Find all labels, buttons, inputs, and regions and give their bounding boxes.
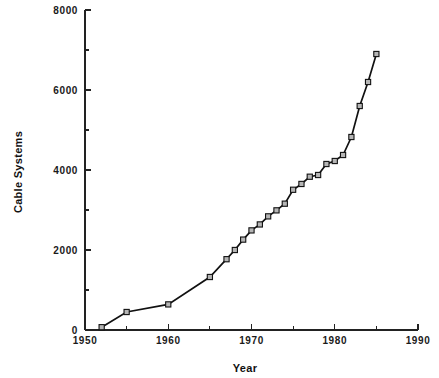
x-tick-label: 1990 bbox=[406, 335, 431, 346]
y-axis-group: 02000400060008000 bbox=[53, 5, 91, 336]
x-tick-label: 1980 bbox=[322, 335, 347, 346]
data-point-marker bbox=[316, 172, 321, 177]
series-line-cable-systems bbox=[102, 54, 377, 327]
chart-svg: 02000400060008000 19501960197019801990 Y… bbox=[0, 0, 439, 378]
data-point-marker bbox=[357, 103, 362, 108]
data-point-marker bbox=[166, 302, 171, 307]
data-point-marker bbox=[340, 152, 345, 157]
data-point-marker bbox=[266, 214, 271, 219]
data-point-marker bbox=[124, 309, 129, 314]
y-axis-major-ticks bbox=[85, 10, 91, 330]
data-point-marker bbox=[307, 174, 312, 179]
y-axis-title: Cable Systems bbox=[12, 131, 24, 213]
x-axis-title: Year bbox=[233, 362, 258, 374]
data-point-marker bbox=[249, 228, 254, 233]
data-point-marker bbox=[224, 257, 229, 262]
data-point-marker bbox=[291, 187, 296, 192]
x-tick-label: 1970 bbox=[239, 335, 264, 346]
y-tick-label: 6000 bbox=[53, 85, 78, 96]
y-tick-label: 8000 bbox=[53, 5, 78, 16]
data-point-marker bbox=[282, 201, 287, 206]
x-tick-label: 1960 bbox=[156, 335, 181, 346]
y-tick-label: 2000 bbox=[53, 245, 78, 256]
cable-systems-line-chart: 02000400060008000 19501960197019801990 Y… bbox=[0, 0, 439, 378]
data-point-marker bbox=[257, 222, 262, 227]
x-axis-major-ticks bbox=[85, 324, 418, 330]
series-group bbox=[99, 51, 379, 329]
data-point-marker bbox=[374, 51, 379, 56]
data-point-marker bbox=[274, 208, 279, 213]
x-axis-tick-labels: 19501960197019801990 bbox=[73, 335, 431, 346]
data-point-marker bbox=[207, 274, 212, 279]
y-axis-tick-labels: 02000400060008000 bbox=[53, 5, 78, 336]
data-point-marker bbox=[324, 161, 329, 166]
data-point-marker bbox=[299, 181, 304, 186]
x-axis-group: 19501960197019801990 bbox=[73, 324, 431, 346]
series-markers-cable-systems bbox=[99, 51, 379, 329]
y-tick-label: 4000 bbox=[53, 165, 78, 176]
data-point-marker bbox=[241, 237, 246, 242]
data-point-marker bbox=[232, 247, 237, 252]
x-tick-label: 1950 bbox=[73, 335, 98, 346]
data-point-marker bbox=[99, 325, 104, 330]
y-tick-label: 0 bbox=[72, 325, 78, 336]
data-point-marker bbox=[349, 134, 354, 139]
data-point-marker bbox=[332, 158, 337, 163]
data-point-marker bbox=[365, 79, 370, 84]
